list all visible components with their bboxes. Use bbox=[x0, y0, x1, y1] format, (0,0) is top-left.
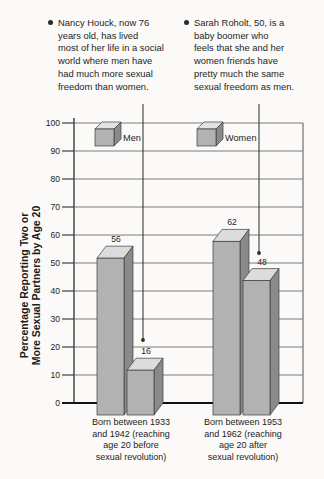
legend-women-label: Women bbox=[225, 133, 257, 143]
bar-value-label: 62 bbox=[227, 217, 237, 227]
legend-men-swatch bbox=[95, 129, 114, 146]
y-tick-label: 70 bbox=[50, 202, 60, 212]
bar-chart: 010203040506070809010056166248MenWomen bbox=[0, 0, 324, 479]
bar-women-1-front bbox=[243, 281, 270, 415]
bar-women-1-side bbox=[270, 269, 279, 415]
bar-women-0-front bbox=[127, 370, 154, 415]
y-tick-label: 30 bbox=[50, 314, 60, 324]
y-tick-label: 0 bbox=[55, 398, 60, 408]
y-tick-label: 50 bbox=[50, 258, 60, 268]
legend-women-swatch bbox=[197, 129, 216, 146]
x-category-label-2: Born between 1953 and 1962 (reaching age… bbox=[178, 417, 308, 463]
y-tick-label: 80 bbox=[50, 174, 60, 184]
y-axis-title: Percentage Reporting Two or More Sexual … bbox=[19, 176, 42, 396]
y-tick-label: 40 bbox=[50, 286, 60, 296]
y-tick-label: 60 bbox=[50, 230, 60, 240]
legend-men-label: Men bbox=[123, 133, 141, 143]
y-tick-label: 100 bbox=[46, 118, 61, 128]
bar-value-label: 56 bbox=[111, 234, 121, 244]
y-tick-label: 90 bbox=[50, 146, 60, 156]
y-tick-label: 10 bbox=[50, 370, 60, 380]
figure: Nancy Houck, now 76 years old, has lived… bbox=[0, 0, 324, 479]
bar-men-1-front bbox=[213, 241, 240, 415]
y-tick-label: 20 bbox=[50, 342, 60, 352]
leader-dot-right bbox=[257, 251, 261, 255]
bar-value-label: 48 bbox=[257, 257, 267, 267]
x-category-label-1: Born between 1933 and 1942 (reaching age… bbox=[66, 417, 196, 463]
bar-value-label: 16 bbox=[141, 346, 151, 356]
chart-content: 010203040506070809010056166248MenWomen bbox=[46, 118, 303, 415]
bar-men-0-front bbox=[97, 258, 124, 415]
leader-dot-left bbox=[141, 338, 145, 342]
